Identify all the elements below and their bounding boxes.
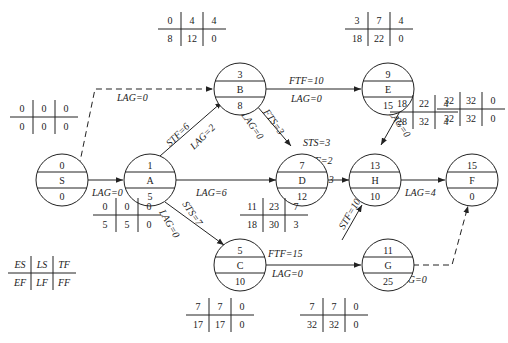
- node-S: 0S0: [36, 154, 88, 206]
- table-cell: 7: [218, 301, 223, 312]
- table-cell: 7: [196, 301, 201, 312]
- table-cell: 0: [64, 121, 69, 132]
- node-label: G: [384, 260, 391, 271]
- table-cell: 17: [215, 319, 225, 330]
- node-duration: 0: [60, 191, 65, 202]
- node-start-time: 7: [300, 160, 305, 171]
- node-label: D: [298, 175, 305, 186]
- node-start-time: 5: [238, 245, 243, 256]
- node-duration: 25: [383, 276, 393, 287]
- label-G-H-stf: STF=10: [336, 197, 362, 231]
- time-table-D: 1123718303: [240, 198, 308, 232]
- edge-G-F: [413, 206, 468, 265]
- time-table-B: 0448120: [158, 12, 226, 46]
- node-duration: 12: [297, 191, 307, 202]
- table-cell: ES: [13, 259, 25, 270]
- table-cell: 0: [168, 15, 173, 26]
- table-cell: 0: [354, 319, 359, 330]
- table-cell: 7: [310, 301, 315, 312]
- time-table-C: 77017170: [186, 298, 254, 332]
- table-cell: 0: [20, 121, 25, 132]
- table-cell: 12: [187, 33, 197, 44]
- node-label: B: [237, 84, 244, 95]
- table-cell: 32: [444, 95, 454, 106]
- node-start-time: 13: [370, 160, 380, 171]
- label-A-B-lag: LAG=2: [187, 122, 217, 152]
- table-cell: 0: [42, 103, 47, 114]
- node-duration: 8: [238, 100, 243, 111]
- node-duration: 15: [383, 100, 393, 111]
- node-label: A: [146, 175, 154, 186]
- time-table-S: 000000: [10, 100, 78, 134]
- table-cell: 18: [247, 219, 257, 230]
- label-S-A-lag: LAG=0: [91, 187, 123, 198]
- time-table-F: 3232032320: [437, 92, 505, 126]
- node-A: 1A5: [124, 154, 176, 206]
- node-label: F: [469, 175, 475, 186]
- node-B: 3B8: [214, 63, 266, 115]
- legend-grid: ESLSTFEFLFFF: [8, 256, 76, 290]
- table-cell: 0: [103, 201, 108, 212]
- table-cell: 0: [147, 219, 152, 230]
- table-cell: 5: [125, 219, 130, 230]
- table-cell: 22: [419, 98, 429, 109]
- table-cell: 0: [399, 33, 404, 44]
- time-table-E: 37418220: [345, 12, 413, 46]
- table-cell: 0: [240, 301, 245, 312]
- table-cell: 7: [377, 15, 382, 26]
- table-cell: 4: [212, 15, 217, 26]
- table-cell: 11: [247, 201, 257, 212]
- node-D: 7D12: [276, 154, 328, 206]
- node-start-time: 15: [467, 160, 477, 171]
- label-A-D-lag: LAG=6: [195, 187, 227, 198]
- node-label: E: [385, 84, 391, 95]
- network-diagram: LAG=0 LAG=0 STF=6 LAG=2 LAG=6 STS=7 LAG=…: [0, 0, 508, 343]
- table-cell: 28: [397, 116, 407, 127]
- node-start-time: 9: [386, 69, 391, 80]
- node-duration: 10: [370, 191, 380, 202]
- table-cell: LF: [35, 277, 49, 288]
- table-cell: 4: [399, 15, 404, 26]
- table-cell: 17: [193, 319, 203, 330]
- time-table-G: 77032320: [300, 298, 368, 332]
- label-B-E-lag: LAG=0: [290, 93, 322, 104]
- table-cell: 0: [491, 113, 496, 124]
- table-cell: LS: [36, 259, 48, 270]
- table-cell: 32: [419, 116, 429, 127]
- node-label: H: [371, 175, 378, 186]
- table-cell: 0: [240, 319, 245, 330]
- node-H: 13H10: [349, 154, 401, 206]
- table-cell: 23: [269, 201, 279, 212]
- table-cell: 0: [20, 103, 25, 114]
- table-cell: 32: [329, 319, 339, 330]
- label-D-H-sts: STS=3: [303, 137, 330, 148]
- node-start-time: 11: [383, 245, 393, 256]
- node-start-time: 0: [60, 160, 65, 171]
- table-cell: 18: [352, 33, 362, 44]
- table-cell: 32: [307, 319, 317, 330]
- table-cell: 32: [444, 113, 454, 124]
- node-C: 5C10: [214, 239, 266, 291]
- table-cell: 22: [374, 33, 384, 44]
- node-duration: 0: [470, 191, 475, 202]
- node-label: C: [237, 260, 244, 271]
- table-cell: 5: [103, 219, 108, 230]
- table-cell: 32: [466, 95, 476, 106]
- table-cell: 8: [168, 33, 173, 44]
- label-S-B-lag: LAG=0: [116, 92, 148, 103]
- table-cell: 18: [397, 98, 407, 109]
- table-cell: 0: [212, 33, 217, 44]
- legend-table: ESLSTFEFLFFF: [8, 256, 76, 290]
- time-table-A: 000550: [93, 198, 161, 232]
- table-cell: 0: [42, 121, 47, 132]
- label-A-C-sts: STS=7: [180, 199, 205, 228]
- label-B-E-ftf: FTF=10: [288, 75, 324, 86]
- table-cell: 0: [125, 201, 130, 212]
- table-cell: 30: [269, 219, 279, 230]
- node-label: S: [59, 175, 65, 186]
- table-cell: 0: [147, 201, 152, 212]
- table-cell: 0: [354, 301, 359, 312]
- table-cell: FF: [57, 277, 71, 288]
- node-G: 11G25: [362, 239, 414, 291]
- label-C-G-ftf: FTF=15: [267, 248, 303, 259]
